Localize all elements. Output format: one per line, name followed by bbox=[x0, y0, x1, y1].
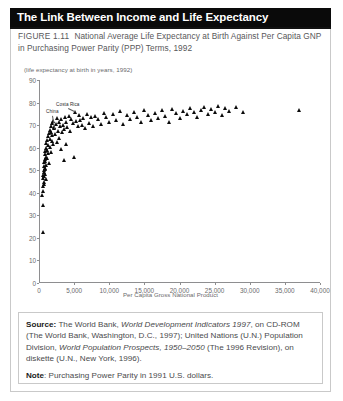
y-axis-tick-mark bbox=[37, 193, 39, 194]
y-axis-tick-label: 40 bbox=[29, 189, 36, 196]
data-point bbox=[153, 111, 157, 115]
data-point bbox=[91, 124, 95, 128]
data-point bbox=[62, 158, 66, 162]
data-point bbox=[43, 172, 47, 176]
data-point bbox=[41, 203, 45, 207]
page-title: The Link Between Income and Life Expecta… bbox=[17, 11, 268, 23]
data-point bbox=[111, 112, 115, 116]
note-text: : Purchasing Power Parity in 1991 U.S. d… bbox=[44, 371, 213, 380]
y-axis-tick-label: 80 bbox=[29, 99, 36, 106]
data-point bbox=[65, 125, 69, 129]
x-axis-tick-mark bbox=[74, 283, 75, 285]
data-point bbox=[195, 115, 199, 119]
data-point bbox=[206, 112, 210, 116]
source-text-part1: The World Bank, bbox=[56, 320, 121, 329]
data-point bbox=[146, 113, 150, 117]
x-axis-tick-mark bbox=[109, 283, 110, 285]
y-axis-tick-mark bbox=[37, 260, 39, 261]
data-point bbox=[83, 126, 87, 130]
data-point bbox=[139, 120, 143, 124]
data-point bbox=[107, 120, 111, 124]
data-point bbox=[156, 116, 160, 120]
data-point bbox=[102, 111, 106, 115]
y-axis-tick-mark bbox=[37, 170, 39, 171]
y-axis-title: (life expectancy at birth in years, 1992… bbox=[24, 66, 132, 73]
figure-number: FIGURE 1.11 bbox=[18, 31, 69, 41]
data-point bbox=[55, 140, 59, 144]
data-point bbox=[59, 147, 63, 151]
y-axis-line bbox=[39, 80, 40, 283]
data-point bbox=[41, 189, 45, 193]
y-axis-tick-mark bbox=[37, 215, 39, 216]
y-axis-tick-label: 10 bbox=[29, 257, 36, 264]
data-point bbox=[57, 136, 61, 140]
data-point bbox=[149, 118, 153, 122]
x-axis-tick-mark bbox=[250, 283, 251, 285]
data-point bbox=[202, 105, 206, 109]
data-point bbox=[167, 120, 171, 124]
data-point bbox=[220, 113, 224, 117]
data-point bbox=[297, 108, 301, 112]
y-axis-tick-label: 90 bbox=[29, 77, 36, 84]
data-point bbox=[114, 118, 118, 122]
y-axis-tick-mark bbox=[37, 148, 39, 149]
figure-screenshot: The Link Between Income and Life Expecta… bbox=[0, 0, 343, 401]
source-line: Source: The World Bank, World Developmen… bbox=[26, 319, 318, 365]
source-label: Source: bbox=[26, 320, 56, 329]
chart-container: (life expectancy at birth in years, 1992… bbox=[18, 62, 323, 302]
y-axis-tick-mark bbox=[37, 238, 39, 239]
data-point bbox=[44, 177, 48, 181]
x-axis-tick-mark bbox=[285, 283, 286, 285]
data-point bbox=[43, 167, 47, 171]
annotation-label: China bbox=[46, 109, 59, 114]
data-point bbox=[142, 108, 146, 112]
y-axis-tick-mark bbox=[37, 80, 39, 81]
y-axis-tick-label: 60 bbox=[29, 144, 36, 151]
data-point bbox=[68, 129, 72, 133]
data-point bbox=[192, 110, 196, 114]
data-point bbox=[241, 110, 245, 114]
data-point bbox=[216, 104, 220, 108]
note-line: Note: Purchasing Power Parity in 1991 U.… bbox=[26, 370, 318, 381]
data-point bbox=[72, 155, 76, 159]
y-axis-tick-label: 0 bbox=[32, 280, 36, 287]
y-axis-tick-mark bbox=[37, 125, 39, 126]
figure-caption: FIGURE 1.11National Average Life Expecta… bbox=[18, 31, 323, 54]
data-point bbox=[81, 116, 85, 120]
data-point bbox=[49, 150, 53, 154]
y-axis-tick-label: 70 bbox=[29, 122, 36, 129]
title-underline-rule bbox=[10, 27, 331, 29]
y-axis-tick-label: 30 bbox=[29, 212, 36, 219]
data-point bbox=[104, 115, 108, 119]
data-point bbox=[99, 122, 103, 126]
data-point bbox=[234, 105, 238, 109]
source-italic-title-1: World Development Indicators 1997 bbox=[121, 320, 250, 329]
data-point bbox=[227, 109, 231, 113]
data-point bbox=[41, 230, 45, 234]
annotation-label: Costa Rica bbox=[56, 102, 79, 107]
figure-title-bar: The Link Between Income and Life Expecta… bbox=[10, 8, 331, 27]
y-axis-tick-mark bbox=[37, 103, 39, 104]
data-point bbox=[45, 156, 49, 160]
data-point bbox=[47, 161, 51, 165]
data-point bbox=[178, 116, 182, 120]
x-axis-tick-mark bbox=[215, 283, 216, 285]
data-point bbox=[96, 117, 100, 121]
data-point bbox=[163, 114, 167, 118]
data-point bbox=[135, 115, 139, 119]
data-point bbox=[64, 120, 68, 124]
x-axis-title: Per Capita Gross National Product bbox=[18, 291, 323, 298]
data-point bbox=[185, 112, 189, 116]
data-point bbox=[40, 193, 44, 197]
scatter-plot-area: 010203040506070809005,00010,00015,00020,… bbox=[39, 80, 320, 283]
data-point bbox=[160, 108, 164, 112]
x-axis-tick-mark bbox=[144, 283, 145, 285]
data-point bbox=[121, 122, 125, 126]
x-axis-tick-mark bbox=[180, 283, 181, 285]
data-point bbox=[174, 111, 178, 115]
y-axis-tick-label: 20 bbox=[29, 234, 36, 241]
data-point bbox=[132, 110, 136, 114]
data-point bbox=[213, 110, 217, 114]
note-label: Note bbox=[26, 371, 44, 380]
x-axis-tick-mark bbox=[320, 283, 321, 285]
